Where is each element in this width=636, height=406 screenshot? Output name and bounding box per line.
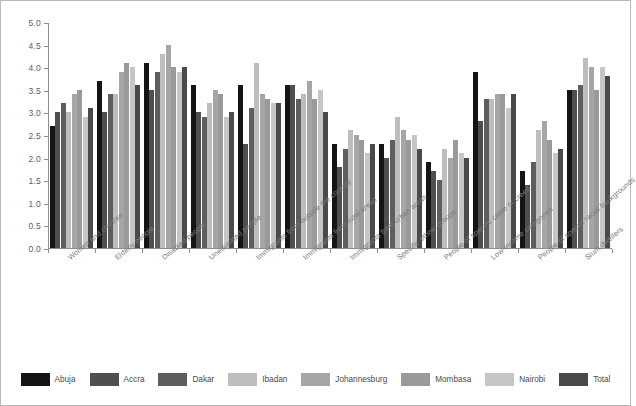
legend-label: Ibadan (262, 375, 287, 384)
legend-label: Johannesburg (335, 375, 387, 384)
bar (605, 76, 610, 248)
legend-label: Nairobi (519, 375, 545, 384)
bar (182, 67, 187, 248)
bar (135, 85, 140, 248)
y-tick-label: 4.5 (29, 41, 41, 51)
y-tick (44, 159, 48, 160)
y-tick-label: 5.0 (29, 18, 41, 28)
legend-swatch-johannesburg (301, 373, 330, 386)
legend-item[interactable]: Accra (90, 373, 145, 386)
legend-swatch-mombasa (401, 373, 430, 386)
y-tick-label: 0.5 (29, 221, 41, 231)
legend-swatch-abuja (21, 373, 50, 386)
y-tick-label: 2.5 (29, 131, 41, 141)
legend-item[interactable]: Abuja (21, 373, 76, 386)
y-tick (44, 181, 48, 182)
x-axis-labels: Women and childrenElderly peopleDisabled… (1, 251, 632, 351)
y-tick (44, 226, 48, 227)
legend-swatch-accra (90, 373, 119, 386)
legend-label: Total (593, 375, 610, 384)
legend-item[interactable]: Total (559, 373, 610, 386)
y-tick-label: 2.0 (29, 154, 41, 164)
legend-label: Dakar (192, 375, 214, 384)
y-tick (44, 68, 48, 69)
bar (323, 112, 328, 248)
legend-item[interactable]: Nairobi (485, 373, 545, 386)
y-tick (44, 91, 48, 92)
bar-group (144, 22, 188, 248)
y-tick (44, 46, 48, 47)
y-tick-label: 1.5 (29, 176, 41, 186)
bar (511, 94, 516, 248)
bar-group (191, 22, 235, 248)
bar-group (238, 22, 282, 248)
y-tick-label: 3.5 (29, 86, 41, 96)
legend-label: Accra (124, 375, 145, 384)
y-tick-label: 3.0 (29, 108, 41, 118)
legend-label: Mombasa (435, 375, 471, 384)
y-tick (44, 136, 48, 137)
bar (276, 103, 281, 248)
bar (88, 108, 93, 248)
legend-swatch-total (559, 373, 588, 386)
bar-group (50, 22, 94, 248)
legend-swatch-ibadan (228, 373, 257, 386)
legend-item[interactable]: Dakar (158, 373, 214, 386)
bar (229, 112, 234, 248)
y-tick-label: 4.0 (29, 63, 41, 73)
legend-item[interactable]: Johannesburg (301, 373, 387, 386)
legend-swatch-nairobi (485, 373, 514, 386)
legend-item[interactable]: Ibadan (228, 373, 287, 386)
plot-area: 0.00.51.01.52.02.53.03.54.04.55.0 (48, 23, 612, 249)
y-tick (44, 204, 48, 205)
chart-legend: AbujaAccraDakarIbadanJohannesburgMombasa… (1, 369, 630, 389)
y-tick (44, 113, 48, 114)
legend-swatch-dakar (158, 373, 187, 386)
legend-label: Abuja (55, 375, 76, 384)
legend-item[interactable]: Mombasa (401, 373, 471, 386)
y-tick-label: 1.0 (29, 199, 41, 209)
y-tick (44, 23, 48, 24)
